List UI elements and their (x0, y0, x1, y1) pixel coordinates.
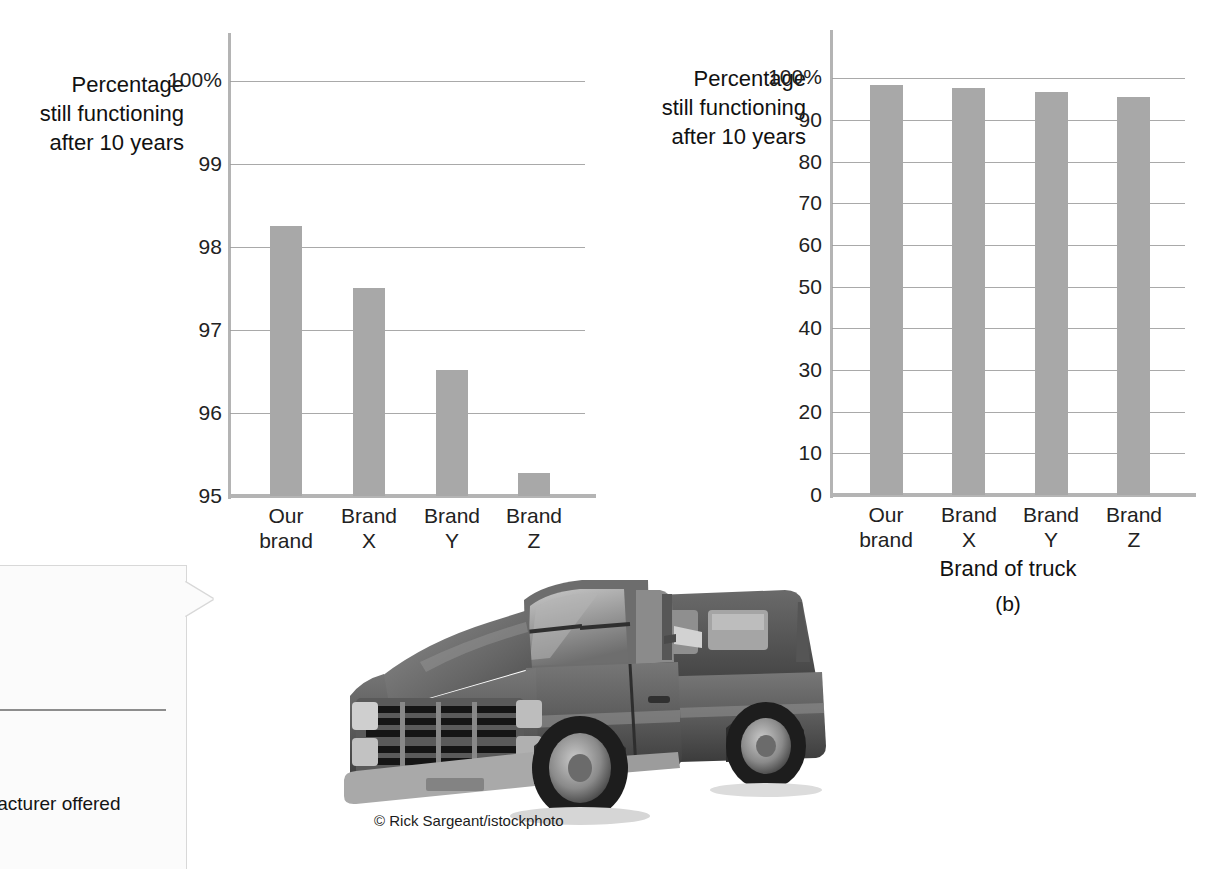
chart-b-ytick-30: 30 (718, 358, 822, 382)
chart-a-bar-brand-z (518, 473, 550, 496)
chart-b-gridline-100 (832, 78, 1185, 79)
callout-body-text: facturer offered and names much greater … (0, 726, 192, 869)
chart-b-xtick-brand-z: Brand Z (1074, 502, 1194, 552)
callout-pointer-icon (185, 582, 213, 616)
chart-a-ytick-99: 99 (130, 152, 222, 176)
chart-b-ytick-10: 10 (718, 441, 822, 465)
chart-b-ytick-100: 100% (718, 65, 822, 89)
chart-a-gridline-100 (230, 81, 585, 82)
chart-b-ytick-70: 70 (718, 191, 822, 215)
chart-b-bar-brand-x (952, 88, 985, 495)
chart-a-ytick-98: 98 (130, 235, 222, 259)
chart-b-y-axis-line (830, 30, 833, 498)
chart-a-gridline-99 (230, 164, 585, 165)
chart-b-ytick-80: 80 (718, 150, 822, 174)
chart-a-xtick-brand-z-line1: Brand (474, 503, 594, 528)
truck-photo (330, 550, 896, 832)
chart-b-ytick-60: 60 (718, 233, 822, 257)
chart-a-bar-brand-y (436, 370, 468, 496)
chart-panel-b: Percentage still functioning after 10 ye… (608, 0, 1216, 620)
chart-a-bar-brand-x (353, 288, 385, 496)
callout-divider (0, 709, 166, 711)
chart-b-xtick-brand-z-line1: Brand (1074, 502, 1194, 527)
chart-a-bar-our-brand (270, 226, 302, 496)
truck-photo-illustration (330, 550, 896, 832)
chart-a-xtick-brand-z: Brand Z (474, 503, 594, 553)
callout-line-1: facturer offered (0, 788, 192, 819)
chart-a-y-axis-line (228, 33, 231, 499)
chart-a-plot-area: 100% 99 98 97 96 95 (0, 0, 608, 520)
chart-b-ytick-40: 40 (718, 316, 822, 340)
chart-a-ytick-100: 100% (130, 68, 222, 92)
photo-credit: © Rick Sargeant/istockphoto (374, 812, 563, 829)
chart-b-ytick-50: 50 (718, 275, 822, 299)
chart-b-plot-area: 100% 90 80 70 60 50 40 30 20 10 0 (608, 0, 1216, 520)
chart-b-ytick-20: 20 (718, 400, 822, 424)
chart-b-ytick-90: 90 (718, 108, 822, 132)
chart-a-ytick-96: 96 (130, 401, 222, 425)
chart-a-ytick-95: 95 (130, 484, 222, 508)
figure-root: Percentage still functioning after 10 ye… (0, 0, 1216, 869)
chart-b-xtick-brand-z-line2: Z (1074, 527, 1194, 552)
chart-b-bar-brand-y (1035, 92, 1068, 495)
chart-a-ytick-97: 97 (130, 318, 222, 342)
chart-b-ytick-0: 0 (718, 483, 822, 507)
chart-panel-a: Percentage still functioning after 10 ye… (0, 0, 608, 620)
chart-b-bar-our-brand (870, 85, 903, 495)
chart-b-bar-brand-z (1117, 97, 1150, 495)
